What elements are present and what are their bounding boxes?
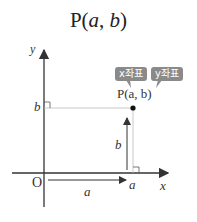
origin-label: O — [32, 175, 42, 191]
x-tick-label: a — [129, 177, 136, 193]
y-tick-label: b — [34, 99, 41, 115]
coordinate-plane — [0, 0, 197, 222]
right-angle-mark-y — [44, 102, 50, 108]
x-coordinate-badge: x좌표 — [115, 67, 147, 81]
horizontal-arrow-label: a — [84, 184, 91, 200]
right-angle-mark-x — [133, 167, 139, 173]
point-p — [130, 105, 135, 110]
point-label: P(a, b) — [117, 86, 152, 102]
x-axis-label: x — [160, 178, 166, 194]
y-coordinate-badge: y좌표 — [151, 67, 183, 81]
y-axis-label: y — [30, 42, 35, 57]
vertical-arrow-label: b — [115, 137, 122, 153]
